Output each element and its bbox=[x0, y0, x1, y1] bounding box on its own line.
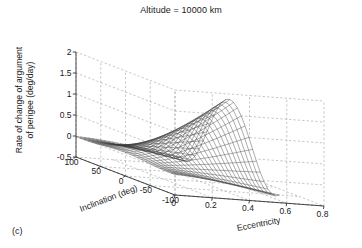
y-axis-label: Eccentricity bbox=[236, 215, 282, 233]
axis-tick-label: 0 bbox=[67, 131, 72, 141]
axis-tick-label: 1 bbox=[67, 89, 72, 99]
axis-tick-label: -50 bbox=[140, 185, 153, 195]
axis-tick-label: 0 bbox=[119, 176, 124, 186]
axis-tick-label: 0.8 bbox=[317, 209, 329, 219]
axis-tick-label: 1.5 bbox=[60, 68, 72, 78]
x-axis-label: Inclination (deg) bbox=[78, 183, 139, 214]
axis-tick-label: 0.5 bbox=[60, 110, 72, 120]
panel-label: (c) bbox=[12, 226, 23, 236]
axis-tick-label: 0.6 bbox=[279, 206, 291, 216]
axis-tick-label: 50 bbox=[92, 166, 102, 176]
axis-tick-label: 0.4 bbox=[242, 203, 254, 213]
z-axis-label: Rate of change of argumentof perigee (de… bbox=[14, 40, 35, 160]
surface-plot-svg: -0.500.511.52100500-50-10000.20.40.60.8I… bbox=[0, 0, 362, 248]
axis-tick-label: 100 bbox=[64, 157, 78, 167]
axis-tick-label: 0.2 bbox=[205, 200, 217, 210]
figure-panel: Altitude = 10000 km -0.500.511.52100500-… bbox=[0, 0, 362, 248]
axis-tick-label: 0 bbox=[171, 198, 176, 208]
axis-tick-label: 2 bbox=[67, 47, 72, 57]
